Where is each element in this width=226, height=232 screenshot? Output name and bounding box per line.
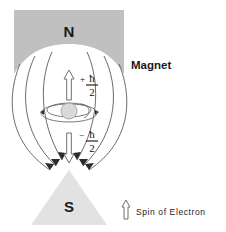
spin-down-arrow: [64, 133, 74, 163]
spin-down-numerator: ħ: [89, 128, 95, 140]
spin-arrow-icon: [122, 200, 130, 219]
spin-down-group: − ħ 2: [64, 128, 98, 163]
south-pole-letter: S: [64, 198, 74, 215]
legend-label: Spin of Electron: [136, 207, 206, 217]
north-pole-letter: N: [64, 23, 75, 40]
spin-up-denominator: 2: [89, 86, 95, 98]
field-line-mid-left: [26, 56, 56, 166]
electron-atom-group: [41, 103, 97, 122]
nucleus-circle: [61, 103, 77, 119]
field-line-mid-right: [83, 56, 113, 166]
spin-up-arrow: [64, 70, 74, 100]
magnetic-spin-diagram: N: [0, 0, 226, 232]
spin-up-numerator: ħ: [89, 72, 95, 84]
legend: Spin of Electron: [122, 200, 206, 219]
magnet-label: Magnet: [131, 59, 171, 71]
spin-up-group: + ħ 2: [64, 70, 98, 100]
spin-up-sign: +: [80, 74, 85, 84]
diagram-canvas: N: [0, 0, 226, 232]
spin-down-denominator: 2: [89, 142, 95, 154]
south-pole-triangle: S: [31, 170, 107, 225]
field-arrowhead-outer-right: [85, 163, 94, 170]
spin-down-sign: −: [79, 130, 84, 140]
field-arrowhead-outer-left: [45, 163, 54, 170]
